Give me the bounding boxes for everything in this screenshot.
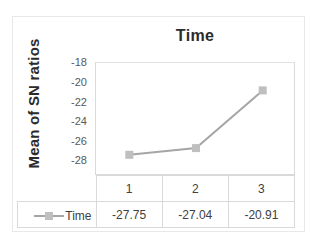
series-line-time [96,63,296,176]
table-corner-cell [18,176,97,202]
data-cell-3: -20.91 [228,202,294,228]
legend-swatch-wrap: Time [34,209,91,223]
y-axis-tick-labels: -18 -20 -22 -24 -26 -28 -30 [56,55,87,181]
column-header-2: 2 [162,176,228,202]
data-cell-2: -27.04 [162,202,228,228]
y-tick-label: -26 [56,136,87,146]
table-row: Time -27.75 -27.04 -20.91 [18,202,295,228]
data-point-marker [125,151,133,159]
legend-label: Time [64,209,91,223]
column-header-3: 3 [228,176,294,202]
y-tick-label: -20 [56,77,87,87]
plot-area [95,62,295,175]
table-header-row: 1 2 3 [18,176,295,202]
data-point-marker [259,86,267,94]
y-tick-label: -24 [56,116,87,126]
chart-data-table: 1 2 3 Time -27.75 -27.04 -20.91 [17,175,295,228]
data-cell-1: -27.75 [96,202,162,228]
column-header-1: 1 [96,176,162,202]
y-tick-label: -18 [56,57,87,67]
legend-entry-time: Time [18,202,97,228]
legend-line-marker-icon [34,215,64,217]
y-tick-label: -28 [56,155,87,165]
y-axis-title: Mean of SN ratios [25,24,42,184]
cropped-text-sliver [0,0,318,9]
figure-canvas: Time Mean of SN ratios -18 -20 -22 -24 -… [0,0,318,244]
chart-title: Time [95,27,295,45]
y-tick-label: -22 [56,97,87,107]
data-point-marker [192,144,200,152]
